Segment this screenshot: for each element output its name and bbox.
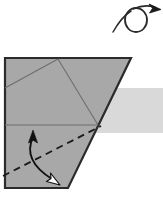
turn-over-loop [125, 8, 147, 32]
turn-over-arrowhead [149, 4, 161, 13]
origami-diagram-figure: Origami step diagram: turn over and vall… [0, 0, 163, 200]
diagram-canvas [0, 0, 163, 200]
turn-over-symbol [113, 4, 161, 32]
